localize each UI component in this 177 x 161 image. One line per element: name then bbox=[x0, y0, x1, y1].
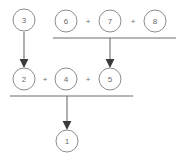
node-label: 3 bbox=[22, 16, 27, 25]
arrow-botsum-to-1 bbox=[63, 96, 72, 130]
node-8[interactable]: 8 bbox=[144, 10, 166, 32]
diagram-canvas: + + + + 3 6 7 8 bbox=[0, 0, 177, 161]
node-1[interactable]: 1 bbox=[56, 130, 78, 152]
plus-operator-top-left: + bbox=[86, 17, 91, 26]
node-label: 5 bbox=[108, 75, 113, 84]
arrow-head-icon bbox=[63, 121, 72, 130]
node-7[interactable]: 7 bbox=[99, 10, 121, 32]
sum-bars-group bbox=[10, 38, 176, 96]
arrow-head-icon bbox=[106, 59, 115, 68]
node-label: 4 bbox=[64, 75, 69, 84]
node-label: 1 bbox=[65, 137, 70, 146]
node-label: 7 bbox=[108, 17, 113, 26]
arrow-head-icon bbox=[20, 59, 29, 68]
node-4[interactable]: 4 bbox=[55, 68, 77, 90]
plus-operator-mid-right: + bbox=[86, 75, 91, 84]
node-2[interactable]: 2 bbox=[13, 68, 35, 90]
node-5[interactable]: 5 bbox=[99, 68, 121, 90]
diagram-svg: + + + + 3 6 7 8 bbox=[0, 0, 177, 161]
arrow-topsum-to-5 bbox=[106, 38, 115, 68]
node-label: 6 bbox=[64, 17, 69, 26]
plus-operator-mid-left: + bbox=[43, 75, 48, 84]
plus-operator-top-right: + bbox=[131, 17, 136, 26]
arrow-3-to-2 bbox=[20, 32, 29, 68]
node-3[interactable]: 3 bbox=[13, 9, 35, 31]
node-6[interactable]: 6 bbox=[55, 10, 77, 32]
node-label: 8 bbox=[153, 17, 158, 26]
node-label: 2 bbox=[22, 75, 27, 84]
